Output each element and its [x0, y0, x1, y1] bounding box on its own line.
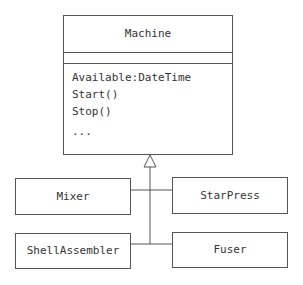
- class-mixer[interactable]: Mixer: [15, 178, 131, 215]
- operation-item: Stop(): [72, 103, 191, 120]
- operation-item: Available:DateTime: [72, 69, 191, 86]
- class-machine-name: Machine: [64, 27, 232, 40]
- attributes-divider: [64, 63, 232, 64]
- generalization-arrow-icon: [144, 155, 156, 167]
- class-shellassembler[interactable]: ShellAssembler: [15, 233, 131, 269]
- name-divider: [64, 52, 232, 53]
- operation-item: ...: [72, 123, 191, 140]
- class-starpress[interactable]: StarPress: [172, 177, 288, 214]
- uml-diagram: Machine Available:DateTime Start() Stop(…: [0, 0, 303, 285]
- operation-item: Start(): [72, 86, 191, 103]
- class-fuser-name: Fuser: [173, 243, 287, 256]
- class-shellassembler-name: ShellAssembler: [16, 244, 130, 257]
- class-machine[interactable]: Machine Available:DateTime Start() Stop(…: [63, 15, 233, 155]
- class-mixer-name: Mixer: [16, 190, 130, 203]
- class-starpress-name: StarPress: [173, 189, 287, 202]
- class-fuser[interactable]: Fuser: [172, 232, 288, 268]
- operations-list: Available:DateTime Start() Stop() ...: [72, 69, 191, 140]
